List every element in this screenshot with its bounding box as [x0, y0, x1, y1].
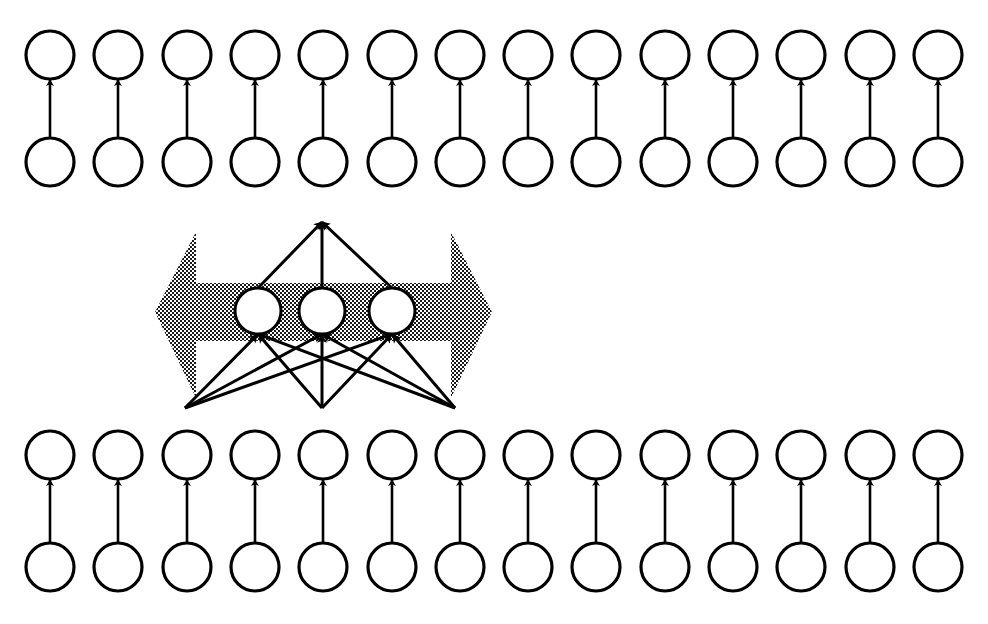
node-circle-upper[interactable] — [436, 31, 484, 79]
node-circle-upper[interactable] — [504, 431, 552, 479]
node-circle-lower[interactable] — [504, 543, 552, 591]
node-circle-upper[interactable] — [368, 31, 416, 79]
node-circle-lower[interactable] — [299, 543, 347, 591]
node-circle-lower[interactable] — [572, 543, 620, 591]
node-circle-lower[interactable] — [914, 138, 962, 186]
node-circle-upper[interactable] — [572, 431, 620, 479]
hidden-node-circle[interactable] — [235, 288, 281, 334]
hidden-node-circle[interactable] — [369, 288, 415, 334]
node-circle-lower[interactable] — [94, 138, 142, 186]
diagram-canvas — [0, 0, 988, 624]
node-circle-lower[interactable] — [709, 543, 757, 591]
node-circle-upper[interactable] — [436, 431, 484, 479]
node-circle-lower[interactable] — [572, 138, 620, 186]
node-circle-lower[interactable] — [231, 543, 279, 591]
node-circle-upper[interactable] — [777, 31, 825, 79]
node-circle-lower[interactable] — [368, 138, 416, 186]
node-circle-lower[interactable] — [436, 138, 484, 186]
node-circle-upper[interactable] — [368, 431, 416, 479]
node-circle-upper[interactable] — [846, 31, 894, 79]
node-circle-lower[interactable] — [163, 138, 211, 186]
node-circle-upper[interactable] — [914, 431, 962, 479]
node-circle-upper[interactable] — [504, 31, 552, 79]
node-circle-upper[interactable] — [846, 431, 894, 479]
node-circle-lower[interactable] — [436, 543, 484, 591]
node-circle-upper[interactable] — [777, 431, 825, 479]
node-circle-upper[interactable] — [94, 31, 142, 79]
node-circle-lower[interactable] — [846, 543, 894, 591]
node-circle-lower[interactable] — [26, 543, 74, 591]
node-circle-lower[interactable] — [231, 138, 279, 186]
node-circle-lower[interactable] — [26, 138, 74, 186]
hidden-layer-nodes — [235, 288, 415, 334]
node-circle-upper[interactable] — [299, 431, 347, 479]
node-circle-upper[interactable] — [572, 31, 620, 79]
node-circle-lower[interactable] — [94, 543, 142, 591]
node-circle-upper[interactable] — [641, 31, 689, 79]
node-circle-upper[interactable] — [914, 31, 962, 79]
node-circle-upper[interactable] — [641, 431, 689, 479]
background — [0, 0, 988, 624]
hidden-node-circle[interactable] — [299, 288, 345, 334]
node-circle-lower[interactable] — [163, 543, 211, 591]
node-circle-upper[interactable] — [231, 31, 279, 79]
node-circle-lower[interactable] — [504, 138, 552, 186]
node-circle-lower[interactable] — [368, 543, 416, 591]
node-circle-upper[interactable] — [299, 31, 347, 79]
node-circle-lower[interactable] — [641, 543, 689, 591]
network-diagram — [0, 0, 988, 624]
node-circle-upper[interactable] — [709, 31, 757, 79]
node-circle-lower[interactable] — [709, 138, 757, 186]
node-circle-upper[interactable] — [231, 431, 279, 479]
node-circle-lower[interactable] — [299, 138, 347, 186]
node-circle-upper[interactable] — [709, 431, 757, 479]
node-circle-upper[interactable] — [94, 431, 142, 479]
node-circle-upper[interactable] — [26, 431, 74, 479]
node-circle-lower[interactable] — [846, 138, 894, 186]
node-circle-lower[interactable] — [914, 543, 962, 591]
node-circle-lower[interactable] — [641, 138, 689, 186]
node-circle-upper[interactable] — [163, 431, 211, 479]
node-circle-lower[interactable] — [777, 138, 825, 186]
node-circle-upper[interactable] — [163, 31, 211, 79]
node-circle-lower[interactable] — [777, 543, 825, 591]
node-circle-upper[interactable] — [26, 31, 74, 79]
